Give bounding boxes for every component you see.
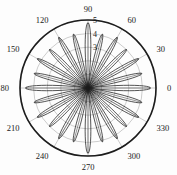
angular-tick-label: 300 bbox=[128, 151, 141, 161]
radial-tick-label: 5 bbox=[93, 16, 97, 25]
angular-tick-label: 30 bbox=[156, 44, 165, 54]
polar-plot-figure: 543 0306090120150180210240270300330 bbox=[0, 0, 177, 175]
angular-tick-label: 240 bbox=[36, 151, 49, 161]
angular-tick-label: 0 bbox=[167, 83, 171, 93]
angular-tick-label: 180 bbox=[0, 83, 9, 93]
radial-tick-labels: 543 bbox=[93, 16, 97, 52]
polar-plot-canvas: 543 0306090120150180210240270300330 bbox=[0, 0, 177, 175]
angular-tick-label: 210 bbox=[7, 123, 20, 133]
angular-tick-label: 120 bbox=[36, 15, 49, 25]
angular-tick-label: 150 bbox=[7, 44, 20, 54]
radial-tick-label: 4 bbox=[93, 30, 97, 39]
angular-tick-label: 270 bbox=[82, 162, 95, 172]
angular-tick-label: 60 bbox=[128, 15, 137, 25]
angular-tick-label: 330 bbox=[156, 123, 169, 133]
radial-tick-label: 3 bbox=[93, 43, 97, 52]
angular-tick-label: 90 bbox=[84, 4, 93, 14]
